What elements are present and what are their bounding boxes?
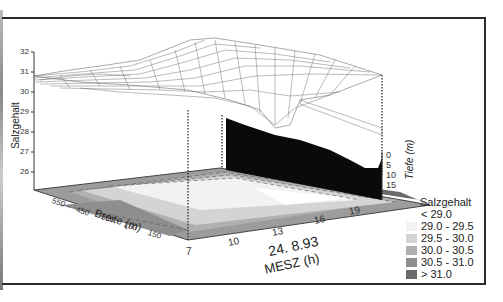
z-tick: 27 <box>20 147 29 156</box>
legend-entry: > 31.0 <box>406 268 474 280</box>
legend: Salzgehalt < 29.0 29.0 - 29.5 29.5 - 30.… <box>406 196 474 280</box>
legend-swatch <box>406 222 417 231</box>
legend-label: 30.0 - 30.5 <box>421 244 474 256</box>
legend-swatch <box>406 210 417 219</box>
legend-swatch <box>406 258 417 267</box>
legend-entry: < 29.0 <box>406 208 474 220</box>
legend-label: 30.5 - 31.0 <box>421 256 474 268</box>
legend-swatch <box>406 234 417 243</box>
z-tick: 28 <box>20 127 29 136</box>
depth-tick: 15 <box>386 180 396 190</box>
z-tick: 32 <box>20 47 29 56</box>
z-tick: 30 <box>20 87 29 96</box>
legend-swatch <box>406 270 417 279</box>
y-tick: 13 <box>271 225 284 238</box>
z-tick: 29 <box>20 107 29 116</box>
z-tick: 31 <box>20 67 29 76</box>
legend-entry: 29.5 - 30.0 <box>406 232 474 244</box>
z-axis <box>31 52 34 190</box>
depth-tick: 0 <box>386 150 391 160</box>
legend-entry: 30.5 - 31.0 <box>406 256 474 268</box>
depth-axis-label: Tiefe (m) <box>404 140 415 180</box>
y-tick: 7 <box>186 246 192 257</box>
legend-title: Salzgehalt <box>420 196 474 208</box>
depth-tick: 5 <box>386 160 391 170</box>
z-tick: 26 <box>20 167 29 176</box>
legend-label: > 31.0 <box>421 268 452 280</box>
legend-swatch <box>406 246 417 255</box>
legend-label: 29.5 - 30.0 <box>421 232 474 244</box>
legend-entry: 29.0 - 29.5 <box>406 220 474 232</box>
legend-entry: 30.0 - 30.5 <box>406 244 474 256</box>
y-tick: 10 <box>227 235 240 248</box>
legend-label: < 29.0 <box>421 208 452 220</box>
depth-tick: 10 <box>386 170 396 180</box>
legend-label: 29.0 - 29.5 <box>421 220 474 232</box>
y-tick: 19 <box>348 204 361 217</box>
y-tick: 16 <box>313 213 326 226</box>
